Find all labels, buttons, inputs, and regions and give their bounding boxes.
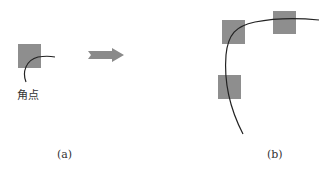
detection-window-square <box>18 44 41 68</box>
transition-arrow-icon <box>88 48 124 62</box>
panel-a <box>18 44 55 82</box>
corner-point-label: 角点 <box>17 86 39 102</box>
caption-a: (a) <box>57 148 72 161</box>
corner-detection-diagram <box>0 0 334 177</box>
detection-window-square-edge-left <box>218 75 241 99</box>
panel-b <box>218 11 319 134</box>
caption-b: (b) <box>267 148 283 161</box>
detection-window-square-edge-top <box>273 11 296 34</box>
